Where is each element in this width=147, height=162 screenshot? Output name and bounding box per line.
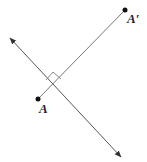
reflection-diagram: A A′	[0, 0, 147, 162]
label-a-prime: A′	[126, 11, 140, 26]
segment-a-a-prime	[38, 10, 125, 99]
line-of-reflection	[10, 38, 121, 157]
label-a: A	[38, 101, 48, 116]
